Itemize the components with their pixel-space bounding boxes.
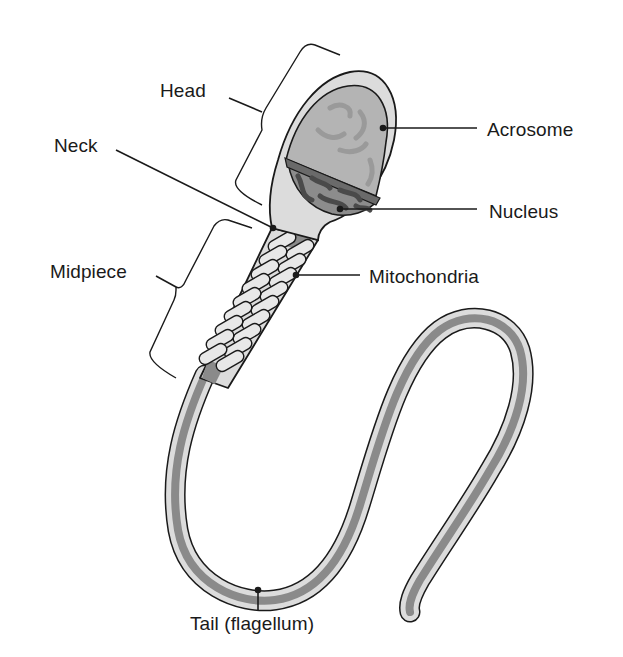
label-neck: Neck: [54, 136, 98, 155]
head: [270, 71, 396, 240]
label-midpiece: Midpiece: [50, 262, 127, 281]
label-head: Head: [160, 81, 206, 100]
label-tail-flagellum: Tail (flagellum): [190, 614, 314, 633]
label-acrosome: Acrosome: [487, 120, 573, 139]
label-nucleus: Nucleus: [489, 202, 558, 221]
label-mitochondria: Mitochondria: [369, 267, 479, 286]
sperm-cell-diagram: [0, 0, 623, 657]
